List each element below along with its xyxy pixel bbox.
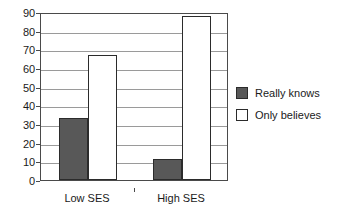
y-axis-tick-label: 0 (10, 176, 35, 187)
plot-area (40, 13, 228, 181)
legend-swatch-icon (236, 109, 248, 121)
legend-label: Only believes (255, 109, 321, 121)
y-axis-tick-label: 20 (10, 139, 35, 150)
bar (153, 159, 182, 180)
y-axis-tick-label: 30 (10, 120, 35, 131)
y-axis-labels: 9080706050403020100 (10, 0, 35, 220)
y-axis-tick-label: 40 (10, 101, 35, 112)
x-axis-labels: Low SESHigh SES (40, 192, 228, 208)
legend-label: Really knows (255, 87, 320, 99)
x-axis-tick-label: High SES (134, 192, 228, 205)
y-axis-tick-label: 50 (10, 83, 35, 94)
y-axis-tickmark (36, 181, 40, 182)
x-axis-tick-label: Low SES (40, 192, 134, 205)
bar (59, 118, 88, 180)
bars-layer (41, 14, 227, 180)
y-axis-tick-label: 90 (10, 8, 35, 19)
legend-swatch-icon (236, 87, 248, 99)
x-axis-tickmark (134, 188, 135, 192)
y-axis-tick-label: 10 (10, 157, 35, 168)
bar-chart-figure: 9080706050403020100 Low SESHigh SES Real… (0, 0, 338, 220)
chart-legend: Really knowsOnly believes (236, 82, 336, 126)
y-axis-tick-label: 60 (10, 64, 35, 75)
bar (182, 16, 211, 180)
legend-item: Really knows (236, 82, 336, 104)
legend-item: Only believes (236, 104, 336, 126)
bar (88, 55, 117, 180)
y-axis-tick-label: 80 (10, 27, 35, 38)
y-axis-tick-label: 70 (10, 45, 35, 56)
